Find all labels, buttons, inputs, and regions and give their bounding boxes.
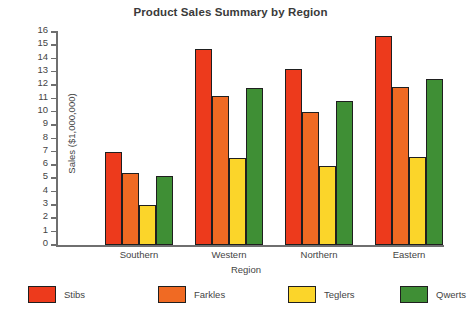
legend-swatch (28, 286, 56, 303)
legend-swatch (400, 286, 428, 303)
y-tick-label: 15 (37, 38, 48, 48)
y-tick-label: 13 (37, 65, 48, 75)
legend-swatch (158, 286, 186, 303)
legend-label: Stibs (64, 289, 85, 300)
legend-item[interactable]: Stibs (28, 286, 85, 303)
y-tick-label: 5 (43, 171, 48, 181)
bar (195, 49, 212, 245)
legend-swatch (288, 286, 316, 303)
bar (156, 176, 173, 245)
y-tick-label: 11 (38, 92, 48, 102)
bar (122, 173, 139, 245)
y-axis-ticks: 012345678910111213141516 (0, 32, 57, 245)
bar (139, 205, 156, 245)
bar (285, 69, 302, 245)
bar (229, 158, 246, 245)
bar (302, 112, 319, 245)
x-axis-line (56, 245, 444, 247)
y-tick-label: 4 (43, 185, 48, 195)
chart-title: Product Sales Summary by Region (0, 6, 461, 18)
x-tick-label: Eastern (350, 249, 468, 260)
legend-label: Farkles (194, 289, 225, 300)
legend-item[interactable]: Qwerts (400, 286, 466, 303)
y-tick-label: 0 (43, 238, 48, 248)
bar-group (375, 32, 443, 245)
y-tick-label: 7 (43, 145, 48, 155)
y-tick-label: 6 (43, 158, 48, 168)
bar (105, 152, 122, 245)
y-tick-label: 9 (43, 118, 48, 128)
y-tick-label: 2 (43, 211, 48, 221)
legend-label: Teglers (324, 289, 355, 300)
bar (392, 87, 409, 245)
x-axis-title: Region (57, 264, 435, 275)
bar (319, 166, 336, 245)
bar-group (285, 32, 353, 245)
bar (246, 88, 263, 245)
y-tick-label: 3 (43, 198, 48, 208)
legend-label: Qwerts (436, 289, 466, 300)
y-tick-label: 12 (37, 78, 48, 88)
bar-groups (57, 32, 435, 245)
legend-item[interactable]: Farkles (158, 286, 225, 303)
y-tick-label: 14 (37, 52, 48, 62)
bar (212, 96, 229, 245)
bar-group (105, 32, 173, 245)
bar-group (195, 32, 263, 245)
chart-legend: StibsFarklesTeglersQwerts (0, 286, 461, 310)
legend-item[interactable]: Teglers (288, 286, 355, 303)
bar (409, 157, 426, 245)
bar (336, 101, 353, 245)
y-tick-label: 10 (37, 105, 48, 115)
y-tick-label: 8 (43, 132, 48, 142)
bar (375, 36, 392, 245)
y-tick-label: 16 (37, 25, 48, 35)
y-tick-label: 1 (43, 225, 48, 235)
bar (426, 79, 443, 245)
